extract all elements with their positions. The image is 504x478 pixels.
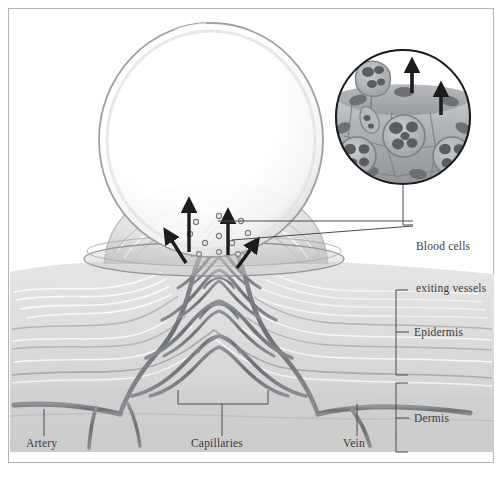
leukocyte-in-vessel-left [338, 137, 376, 175]
leukocyte-in-vessel-center [383, 115, 425, 157]
label-blood-cells-line2: exiting vessels [416, 281, 486, 295]
label-dermis: Dermis [414, 412, 449, 426]
label-epidermis: Epidermis [414, 326, 463, 340]
label-blood-cells-line1: Blood cells [416, 239, 486, 253]
label-vein: Vein [343, 437, 365, 451]
label-artery: Artery [26, 437, 57, 451]
label-blood-cells: Blood cells exiting vessels [416, 211, 486, 323]
figure-canvas: Blood cells exiting vessels Epidermis De… [0, 0, 504, 478]
inset-magnifier [330, 50, 478, 190]
label-capillaries: Capillaries [191, 437, 243, 451]
